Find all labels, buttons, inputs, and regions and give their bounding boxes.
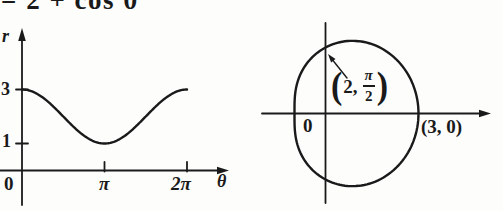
right-polar-point-label: ( 2, π 2 ) (331, 66, 388, 106)
left-curve (22, 90, 187, 144)
figure-svg (0, 0, 503, 211)
point-label-fraction-numerator: π (363, 67, 375, 87)
point-label-r-value: 2, (343, 74, 357, 98)
left-ytick-1-label: 1 (2, 132, 11, 150)
equation-text-cropped: = 2 + cos θ (1, 0, 139, 16)
figure-canvas: = 2 + cos θ r 3 1 0 π 2π θ 0 (3, 0) ( 2,… (0, 0, 503, 211)
point-label-open-paren: ( (331, 66, 342, 106)
right-x-intercept-label: (3, 0) (421, 117, 462, 136)
left-ytick-3-label: 3 (1, 80, 10, 98)
left-origin-label: 0 (4, 174, 14, 193)
right-origin-label: 0 (303, 116, 313, 135)
left-x-axis-label: θ (217, 172, 226, 190)
right-plot (262, 23, 491, 203)
left-r-axis-arrowhead (18, 28, 26, 41)
point-label-fraction-denominator: 2 (365, 87, 373, 105)
point-label-close-paren: ) (377, 66, 388, 106)
left-y-axis-label: r (2, 27, 9, 45)
left-plot (0, 28, 229, 205)
point-label-fraction: π 2 (363, 67, 375, 105)
left-xtick-2pi-label: 2π (171, 174, 191, 193)
left-xtick-pi-label: π (99, 174, 109, 193)
right-horizontal-axis-arrowhead (479, 110, 491, 118)
